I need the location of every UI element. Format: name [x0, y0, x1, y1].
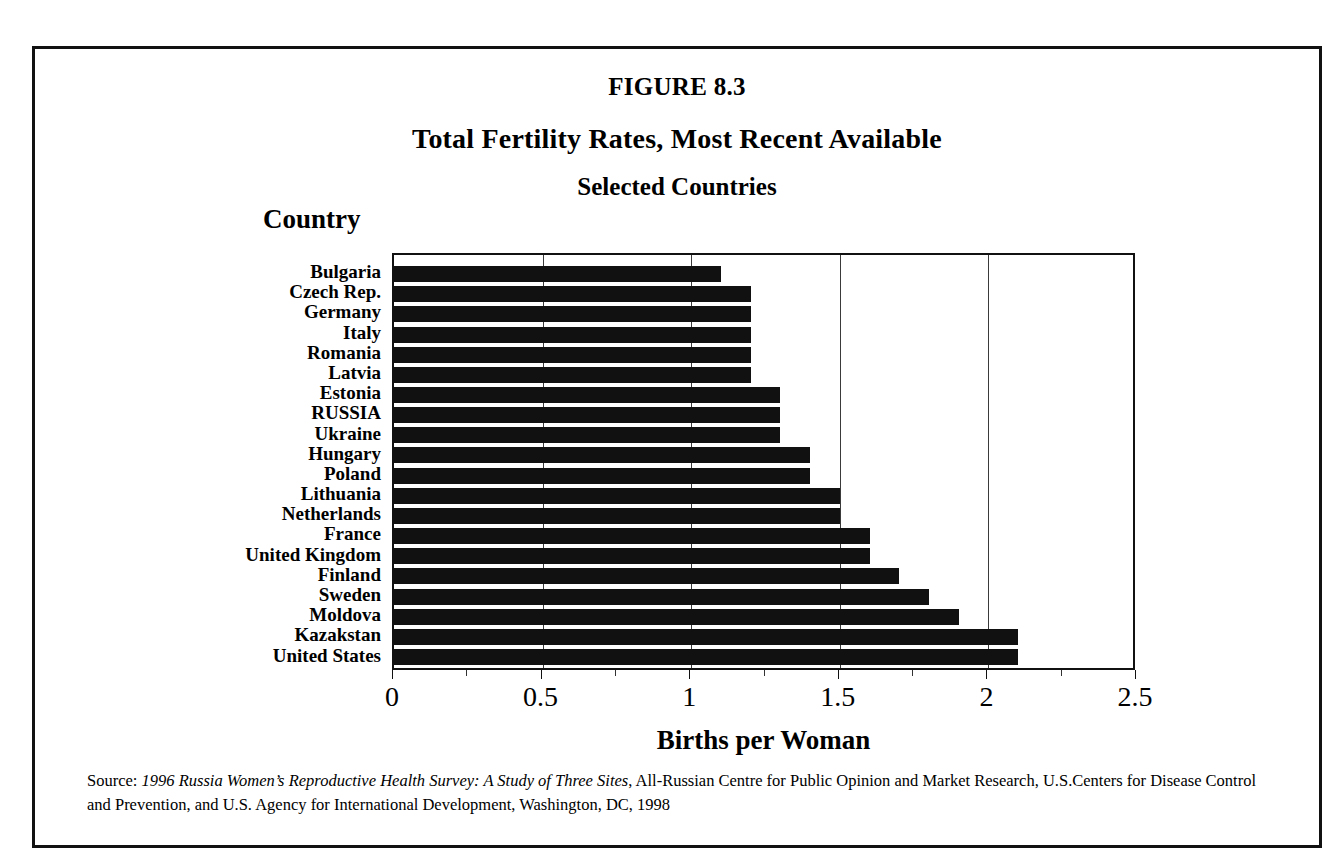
bar — [394, 508, 840, 524]
bar-row — [394, 466, 1133, 486]
category-label: Lithuania — [115, 484, 387, 504]
bar — [394, 548, 870, 564]
value-axis-tick — [1135, 670, 1136, 679]
bar — [394, 427, 780, 443]
bar — [394, 266, 721, 282]
figure-frame: FIGURE 8.3 Total Fertility Rates, Most R… — [32, 46, 1322, 848]
category-label: Netherlands — [115, 504, 387, 524]
bar — [394, 468, 810, 484]
bar-row — [394, 506, 1133, 526]
category-label: Latvia — [115, 363, 387, 383]
bar — [394, 629, 1018, 645]
value-axis-minor-tick — [764, 670, 765, 676]
category-label: RUSSIA — [115, 403, 387, 423]
category-label: Czech Rep. — [115, 282, 387, 302]
bar — [394, 367, 751, 383]
value-axis-minor-tick — [615, 670, 616, 676]
category-label: Romania — [115, 343, 387, 363]
category-label: Kazakstan — [115, 625, 387, 645]
source-title: 1996 Russia Women’s Reproductive Health … — [142, 771, 629, 790]
category-label: Finland — [115, 565, 387, 585]
bar-row — [394, 546, 1133, 566]
bar — [394, 649, 1018, 665]
source-label: Source: — [87, 771, 142, 790]
value-axis-minor-tick — [1061, 670, 1062, 676]
bar — [394, 407, 780, 423]
value-axis-tick-label: 2 — [979, 681, 993, 713]
bar-row — [394, 365, 1133, 385]
bar — [394, 589, 929, 605]
value-axis-tick — [689, 670, 690, 679]
category-label: Poland — [115, 464, 387, 484]
bar — [394, 568, 899, 584]
category-axis-labels: BulgariaCzech Rep.GermanyItalyRomaniaLat… — [115, 262, 387, 670]
bar — [394, 286, 751, 302]
bar-row — [394, 385, 1133, 405]
value-axis-tick-label: 1.5 — [820, 681, 855, 713]
value-axis-tick-label: 1 — [682, 681, 696, 713]
value-axis-tick — [838, 670, 839, 679]
bar — [394, 447, 810, 463]
bar — [394, 306, 751, 322]
category-label: Bulgaria — [115, 262, 387, 282]
bar-row — [394, 264, 1133, 284]
value-axis-minor-tick — [912, 670, 913, 676]
bar — [394, 327, 751, 343]
value-axis-tick — [541, 670, 542, 679]
value-axis-tick-label: 0.5 — [523, 681, 558, 713]
bar-row — [394, 405, 1133, 425]
bar-row — [394, 304, 1133, 324]
category-label: Moldova — [115, 605, 387, 625]
bar — [394, 387, 780, 403]
category-label: Ukraine — [115, 424, 387, 444]
category-label: United Kingdom — [115, 545, 387, 565]
bar-row — [394, 566, 1133, 586]
category-label: Sweden — [115, 585, 387, 605]
bar — [394, 347, 751, 363]
bar-chart: BulgariaCzech Rep.GermanyItalyRomaniaLat… — [35, 49, 1325, 851]
bar-row — [394, 526, 1133, 546]
bar-series — [394, 264, 1133, 667]
category-label: Hungary — [115, 444, 387, 464]
source-note: Source: 1996 Russia Women’s Reproductive… — [87, 769, 1275, 817]
bar-row — [394, 627, 1133, 647]
value-axis-tick — [986, 670, 987, 679]
value-axis-tick — [392, 670, 393, 679]
bar-row — [394, 486, 1133, 506]
bar-row — [394, 425, 1133, 445]
value-axis-title: Births per Woman — [392, 725, 1135, 756]
bar-row — [394, 587, 1133, 607]
category-label: United States — [115, 646, 387, 666]
bar-row — [394, 445, 1133, 465]
bar-row — [394, 607, 1133, 627]
page-top-margin — [0, 0, 1344, 22]
bar-row — [394, 647, 1133, 667]
value-axis-tick-label: 0 — [385, 681, 399, 713]
bar-row — [394, 345, 1133, 365]
value-axis-tick-label: 2.5 — [1118, 681, 1153, 713]
category-label: Germany — [115, 302, 387, 322]
value-axis-minor-tick — [466, 670, 467, 676]
bar — [394, 528, 870, 544]
category-label: France — [115, 524, 387, 544]
bar — [394, 488, 840, 504]
bar-row — [394, 284, 1133, 304]
plot-area — [392, 253, 1135, 670]
category-label: Estonia — [115, 383, 387, 403]
bar-row — [394, 324, 1133, 344]
category-label: Italy — [115, 323, 387, 343]
bar — [394, 609, 959, 625]
